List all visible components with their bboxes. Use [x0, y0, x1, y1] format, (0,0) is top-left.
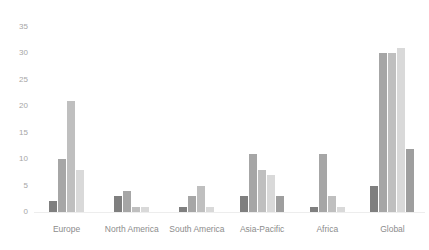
bar-global-s4[interactable]: [397, 48, 405, 212]
y-axis-tick-25: 25: [19, 76, 28, 84]
x-axis-label-europe: Europe: [34, 224, 99, 240]
bar-groups: [34, 27, 425, 212]
axis-baseline: [34, 212, 425, 213]
bar-global-s2[interactable]: [379, 53, 387, 212]
x-axis-label-asia-pacific: Asia-Pacific: [230, 224, 295, 240]
bar-asia-pacific-s4[interactable]: [267, 175, 275, 212]
bar-global-s1[interactable]: [370, 186, 378, 212]
cropped-header-sliver: · ·· · ··· · ···· ·· · ····· ··· ·: [0, 0, 429, 9]
bar-europe-s1[interactable]: [49, 201, 57, 212]
bar-north-america-s4[interactable]: [141, 207, 149, 212]
bar-europe-s4[interactable]: [76, 170, 84, 212]
bar-north-america-s2[interactable]: [123, 191, 131, 212]
bar-group-europe: [34, 27, 99, 212]
bar-south-america-s4[interactable]: [206, 207, 214, 212]
y-axis-tick-10: 10: [19, 155, 28, 163]
x-axis-label-north-america: North America: [99, 224, 164, 240]
y-axis-tick-30: 30: [19, 49, 28, 57]
y-axis-tick-20: 20: [19, 102, 28, 110]
x-axis: EuropeNorth AmericaSouth AmericaAsia-Pac…: [34, 224, 425, 240]
bar-europe-s2[interactable]: [58, 159, 66, 212]
bar-south-america-s2[interactable]: [188, 196, 196, 212]
bar-asia-pacific-s3[interactable]: [258, 170, 266, 212]
bar-asia-pacific-s2[interactable]: [249, 154, 257, 212]
bar-group-south-america: [164, 27, 229, 212]
y-axis-tick-15: 15: [19, 129, 28, 137]
bar-south-america-s1[interactable]: [179, 207, 187, 212]
x-axis-label-africa: Africa: [295, 224, 360, 240]
bar-asia-pacific-s1[interactable]: [240, 196, 248, 212]
x-axis-label-south-america: South America: [164, 224, 229, 240]
bar-chart: · ·· · ··· · ···· ·· · ····· ··· · 05101…: [0, 0, 429, 250]
bar-north-america-s3[interactable]: [132, 207, 140, 212]
bar-asia-pacific-s5[interactable]: [276, 196, 284, 212]
bar-africa-s1[interactable]: [310, 207, 318, 212]
bar-group-asia-pacific: [230, 27, 295, 212]
y-axis-tick-0: 0: [24, 208, 28, 216]
bar-south-america-s3[interactable]: [197, 186, 205, 212]
bar-global-s3[interactable]: [388, 53, 396, 212]
y-axis: 05101520253035: [0, 0, 34, 250]
bar-europe-s3[interactable]: [67, 101, 75, 212]
x-axis-label-global: Global: [360, 224, 425, 240]
bar-group-africa: [295, 27, 360, 212]
bar-africa-s2[interactable]: [319, 154, 327, 212]
bar-global-s5[interactable]: [406, 149, 414, 212]
bar-north-america-s1[interactable]: [114, 196, 122, 212]
bar-africa-s3[interactable]: [328, 196, 336, 212]
bar-group-north-america: [99, 27, 164, 212]
bar-africa-s4[interactable]: [337, 207, 345, 212]
y-axis-tick-35: 35: [19, 23, 28, 31]
bar-group-global: [360, 27, 425, 212]
y-axis-tick-5: 5: [24, 182, 28, 190]
